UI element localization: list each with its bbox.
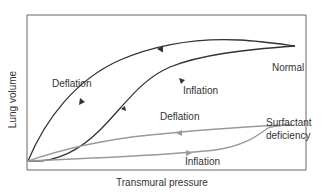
normal-deflation-arrow-icon bbox=[79, 98, 85, 105]
normal-deflation-curve bbox=[28, 40, 295, 161]
normal-deflation-label: Deflation bbox=[52, 78, 91, 89]
y-axis-label: Lung volume bbox=[7, 70, 18, 130]
surfactant-inflation-curve bbox=[28, 125, 292, 161]
surfactant-label-line1: Surfactant bbox=[266, 117, 312, 128]
surfactant-label-line2: deficiency bbox=[266, 130, 310, 141]
plot-frame bbox=[27, 15, 306, 170]
surfactant-inflation-label: Inflation bbox=[185, 156, 220, 167]
surfactant-deflation-label: Deflation bbox=[160, 111, 199, 122]
surfactant-deflation-arrow-icon bbox=[176, 130, 182, 136]
normal-curve-label: Normal bbox=[272, 62, 304, 73]
surfactant-deflation-curve bbox=[28, 125, 292, 161]
normal-inflation-curve bbox=[28, 46, 295, 161]
pressure-volume-diagram bbox=[0, 0, 330, 192]
normal-inflation-arrow-icon bbox=[179, 78, 185, 84]
normal-inflation-label: Inflation bbox=[183, 85, 218, 96]
x-axis-label: Transmural pressure bbox=[116, 177, 208, 188]
